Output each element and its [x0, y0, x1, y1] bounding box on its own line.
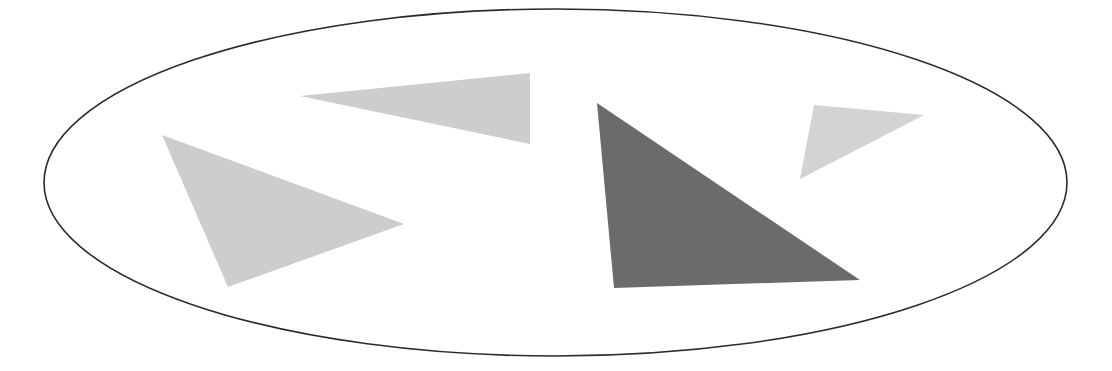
- triangles-group: [162, 73, 924, 288]
- light-triangle-top: [300, 73, 530, 144]
- light-triangle-left: [162, 135, 404, 287]
- diagram-canvas: [0, 0, 1112, 371]
- light-triangle-small: [800, 105, 924, 179]
